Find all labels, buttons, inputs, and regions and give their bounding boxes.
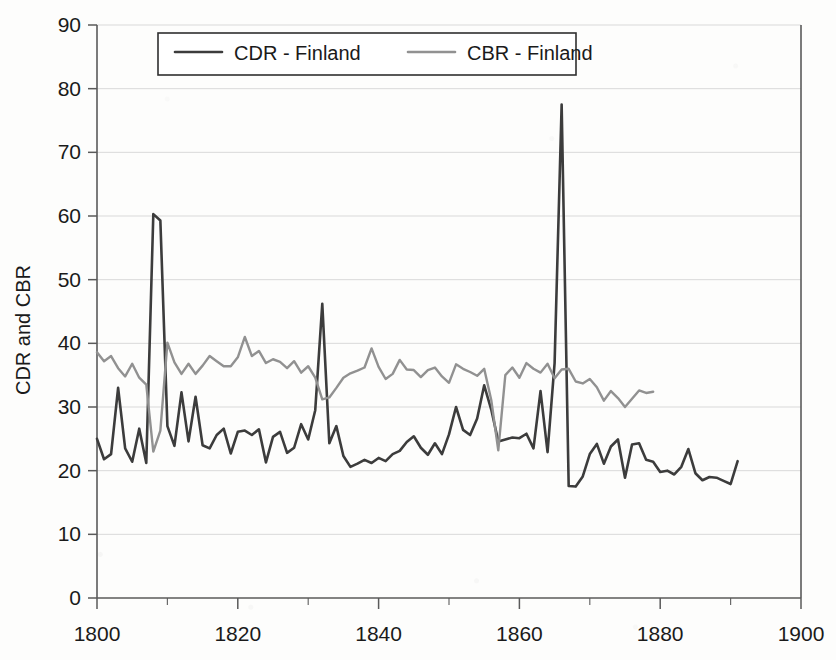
- y-tick-label-90: 90: [58, 13, 81, 36]
- chart-figure: 0102030405060708090 18001820184018601880…: [0, 0, 836, 660]
- chart-background: [0, 0, 836, 660]
- y-tick-label-10: 10: [58, 522, 81, 545]
- y-tick-label-50: 50: [58, 268, 81, 291]
- y-tick-label-70: 70: [58, 140, 81, 163]
- legend-label-cbr: CBR - Finland: [467, 42, 593, 64]
- x-tick-label-1820: 1820: [214, 622, 261, 645]
- line-chart: 0102030405060708090 18001820184018601880…: [0, 0, 836, 660]
- y-tick-label-0: 0: [69, 586, 81, 609]
- x-tick-label-1840: 1840: [355, 622, 402, 645]
- x-tick-label-1800: 1800: [74, 622, 121, 645]
- x-tick-label-1880: 1880: [637, 622, 684, 645]
- y-axis-title: CDR and CBR: [12, 265, 34, 395]
- x-tick-label-1900: 1900: [778, 622, 825, 645]
- y-tick-label-30: 30: [58, 395, 81, 418]
- legend-label-cdr: CDR - Finland: [234, 42, 361, 64]
- chart-legend: CDR - Finland CBR - Finland: [158, 33, 593, 75]
- y-tick-label-60: 60: [58, 204, 81, 227]
- x-tick-label-1860: 1860: [496, 622, 543, 645]
- y-tick-label-20: 20: [58, 459, 81, 482]
- y-tick-label-80: 80: [58, 77, 81, 100]
- y-tick-label-40: 40: [58, 331, 81, 354]
